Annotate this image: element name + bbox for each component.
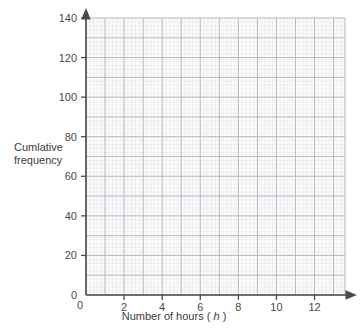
x-tick-label: 8 <box>235 301 241 313</box>
y-tick-label: 20 <box>65 249 77 261</box>
y-tick-label: 80 <box>65 131 77 143</box>
x-axis-title-paren-close: ) <box>223 310 227 322</box>
y-tick-label: 120 <box>59 52 77 64</box>
x-axis-title: Number of hours ( h ) <box>122 310 227 322</box>
x-axis-title-variable: h <box>213 310 219 322</box>
x-axis-arrowhead <box>346 290 358 300</box>
y-tick-label: 100 <box>59 91 77 103</box>
cumulative-frequency-chart: 020406080100120140 246810120 Cumlative f… <box>0 0 364 328</box>
y-tick-label: 140 <box>59 12 77 24</box>
x-axis-title-text: Number of hours <box>122 310 204 322</box>
x-tick-label: 12 <box>308 301 320 313</box>
y-axis-title-line1: Cumlative <box>14 141 63 153</box>
y-tick-label: 60 <box>65 170 77 182</box>
chart-canvas: 020406080100120140 246810120 Cumlative f… <box>0 0 364 328</box>
y-axis-title-line2: frequency <box>14 154 63 166</box>
x-axis-title-paren-open: ( <box>207 310 211 322</box>
x-tick-label: 10 <box>270 301 282 313</box>
y-tick-label: 40 <box>65 210 77 222</box>
origin-label: 0 <box>77 299 83 311</box>
